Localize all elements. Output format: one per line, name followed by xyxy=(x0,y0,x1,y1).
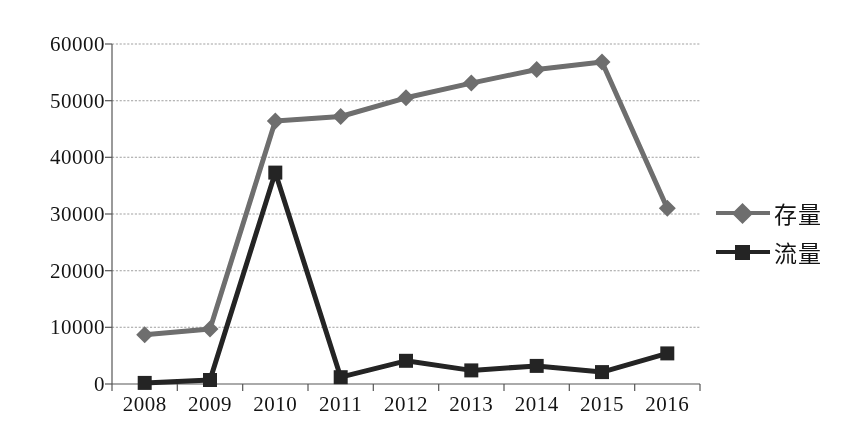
chart-legend: 存量 流量 xyxy=(716,196,856,278)
legend-label-cunliang: 存量 xyxy=(774,196,822,230)
legend-swatch-square-icon xyxy=(716,241,770,263)
legend-swatch-diamond-icon xyxy=(716,202,770,224)
x-axis-ticks xyxy=(112,384,700,391)
y-axis-ticks xyxy=(105,44,112,384)
line-chart: 60000 50000 40000 30000 20000 10000 0 xyxy=(0,0,861,441)
x-axis-tick-label: 2016 xyxy=(627,392,707,417)
legend-label-liuliang: 流量 xyxy=(774,235,822,269)
series-line-liuliang xyxy=(138,166,675,390)
series-line-cunliang xyxy=(136,54,676,344)
x-axis-tick-labels: 2008 2009 2010 2011 2012 2013 2014 2015 … xyxy=(112,392,700,432)
legend-item-cunliang: 存量 xyxy=(716,198,822,228)
legend-item-liuliang: 流量 xyxy=(716,237,822,267)
